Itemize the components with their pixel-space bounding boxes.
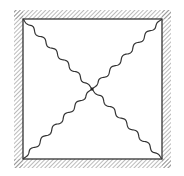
spring-bottom-right bbox=[92, 89, 162, 159]
wall-bottom bbox=[14, 159, 171, 168]
spring-top-left bbox=[23, 19, 92, 89]
wall-top bbox=[14, 10, 171, 19]
wall-right bbox=[162, 10, 171, 168]
spring-top-right bbox=[92, 19, 162, 89]
diagram-canvas bbox=[0, 0, 184, 176]
wall-left bbox=[14, 10, 23, 168]
spring-bottom-left bbox=[23, 89, 92, 159]
spring-mass-diagram bbox=[0, 0, 184, 176]
center-mass-node bbox=[90, 87, 93, 90]
